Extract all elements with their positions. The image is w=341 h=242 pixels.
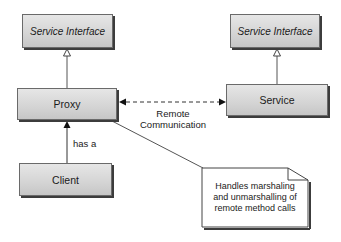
remote-communication-label: Remote Communication — [128, 108, 218, 130]
service-box: Service — [226, 84, 328, 116]
has-a-label: has a — [73, 138, 96, 149]
service-interface-right-box: Service Interface — [230, 14, 320, 48]
proxy-pattern-diagram: Service Interface Service Interface Prox… — [0, 0, 341, 242]
note-line-3: remote method calls — [202, 203, 308, 214]
client-label: Client — [52, 174, 79, 186]
filled-arrowhead-icon — [64, 121, 71, 128]
service-interface-left-label: Service Interface — [30, 26, 105, 37]
arrowhead-right-icon — [219, 99, 226, 106]
proxy-box: Proxy — [17, 88, 117, 120]
proxy-label: Proxy — [54, 98, 81, 110]
remote-label-line2: Communication — [128, 119, 218, 130]
note-line-2: and unmarshalling of — [202, 192, 308, 203]
arrowhead-left-icon — [119, 99, 126, 106]
hollow-triangle-arrow-icon — [64, 49, 71, 56]
remote-label-line1: Remote — [128, 108, 218, 119]
client-box: Client — [19, 163, 112, 196]
service-interface-right-label: Service Interface — [237, 26, 312, 37]
note-text: Handles marshaling and unmarshalling of … — [202, 181, 308, 214]
service-interface-left-box: Service Interface — [22, 14, 113, 48]
note-line-1: Handles marshaling — [202, 181, 308, 192]
hollow-triangle-arrow-icon — [274, 49, 281, 56]
service-label: Service — [259, 94, 294, 106]
